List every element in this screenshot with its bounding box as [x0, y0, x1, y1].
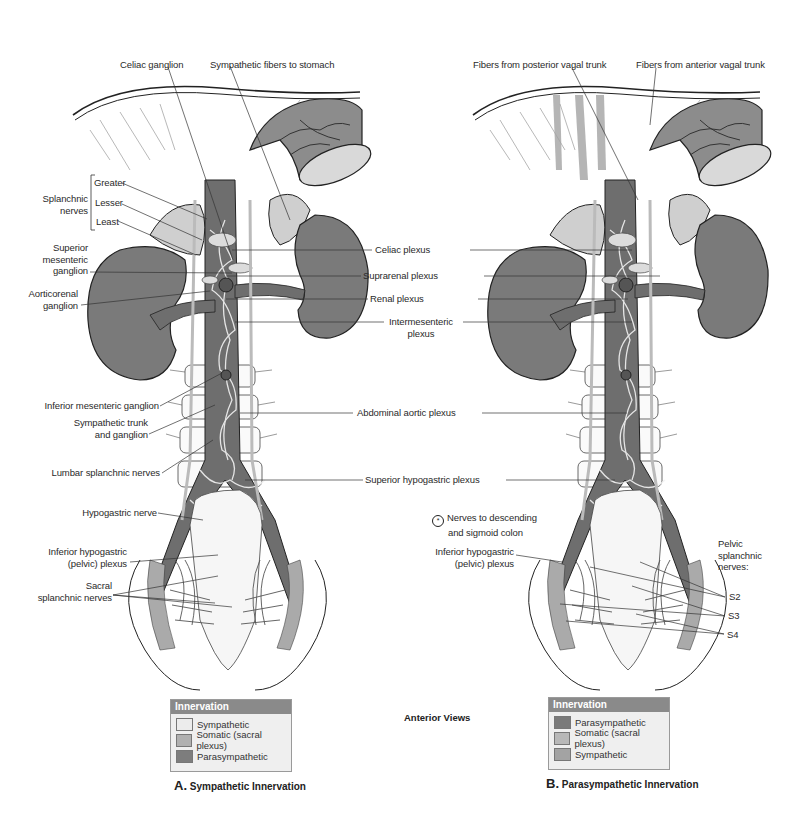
- label-inferior-mesenteric-ganglion: Inferior mesenteric ganglion: [20, 400, 159, 412]
- swatch-sympathetic: [176, 718, 193, 731]
- swatch-somatic: [554, 732, 570, 745]
- label-inferior-hypogastric-plexus-b: Inferior hypogastric (pelvic) plexus: [410, 546, 514, 569]
- label-celiac-plexus: Celiac plexus: [375, 244, 430, 256]
- label-pelvic-splanchnic-nerves: Pelvic splanchnic nerves:: [718, 538, 762, 573]
- label-sympathetic-trunk-and-ganglion: Sympathetic trunk and ganglion: [40, 417, 148, 440]
- label-renal-plexus: Renal plexus: [370, 293, 424, 305]
- label-intermesenteric-plexus: Intermesenteric plexus: [380, 316, 462, 339]
- label-least: Least: [96, 216, 119, 228]
- label-s2: S2: [729, 591, 740, 603]
- label-s3: S3: [728, 610, 739, 622]
- label-aorticorenal-ganglion: Aorticorenal ganglion: [10, 288, 78, 311]
- label-lumbar-splanchnic-nerves: Lumbar splanchnic nerves: [20, 467, 160, 479]
- label-suprarenal-plexus: Suprarenal plexus: [363, 270, 438, 282]
- label-sacral-splanchnic-nerves: Sacral splanchnic nerves: [20, 580, 112, 603]
- caption-panel-b: B. Parasympathetic Innervation: [546, 776, 699, 791]
- swatch-parasympathetic: [176, 750, 193, 763]
- label-sympathetic-fibers-to-stomach: Sympathetic fibers to stomach: [210, 59, 334, 71]
- label-inferior-hypogastric-plexus-a: Inferior hypogastric (pelvic) plexus: [20, 546, 127, 569]
- label-fibers-posterior-vagal-trunk: Fibers from posterior vagal trunk: [473, 59, 606, 71]
- label-hypogastric-nerve: Hypogastric nerve: [40, 507, 157, 519]
- label-greater: Greater: [94, 177, 126, 189]
- legend-item-somatic: Somatic (sacral plexus): [171, 732, 291, 748]
- label-superior-hypogastric-plexus: Superior hypogastric plexus: [365, 474, 480, 486]
- label-abdominal-aortic-plexus: Abdominal aortic plexus: [357, 407, 456, 419]
- swatch-sympathetic: [554, 748, 571, 761]
- legend-title: Innervation: [549, 698, 669, 712]
- swatch-somatic: [176, 734, 192, 747]
- label-lesser: Lesser: [95, 197, 123, 209]
- label-splanchnic-nerves: Splanchnic nerves: [30, 193, 88, 216]
- anterior-views-title: Anterior Views: [404, 712, 470, 723]
- label-superior-mesenteric-ganglion: Superior mesenteric ganglion: [20, 242, 88, 277]
- swatch-parasympathetic: [554, 716, 571, 729]
- label-celiac-ganglion: Celiac ganglion: [120, 59, 183, 71]
- label-fibers-anterior-vagal-trunk: Fibers from anterior vagal trunk: [636, 59, 765, 71]
- star-marker-icon: *: [432, 515, 444, 527]
- label-s4: S4: [727, 629, 738, 641]
- legend-item-somatic: Somatic (sacral plexus): [549, 730, 669, 746]
- legend-title: Innervation: [171, 700, 291, 714]
- caption-panel-a: A. Sympathetic Innervation: [174, 778, 306, 793]
- label-nerves-to-descending-sigmoid-colon: *Nerves to descending and sigmoid colon: [432, 512, 537, 539]
- legend-panel-a: Innervation Sympathetic Somatic (sacral …: [170, 699, 292, 772]
- legend-panel-b: Innervation Parasympathetic Somatic (sac…: [548, 697, 670, 770]
